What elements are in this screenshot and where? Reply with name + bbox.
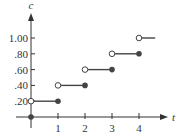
x-axis-label: t [172,111,176,123]
x-axis-arrow-icon [160,114,168,120]
open-point-icon [28,98,34,104]
x-tick-label: 2 [82,122,88,134]
ticks: 1234.20.40.60.801.00 [9,32,143,134]
open-point-icon [109,51,115,57]
y-tick-label: .20 [14,95,28,107]
y-axis-label: c [29,0,34,11]
step-series [28,35,155,120]
axis-labels: tc [29,0,176,123]
y-axis-arrow-icon [28,13,34,21]
open-point-icon [55,83,61,89]
x-tick-label: 1 [55,122,61,134]
y-tick-label: .60 [14,64,28,76]
closed-point-icon [55,98,61,104]
y-tick-label: 1.00 [9,32,29,44]
origin-point-icon [28,114,34,120]
open-point-icon [136,35,142,41]
closed-point-icon [136,51,142,57]
step-function-chart: 1234.20.40.60.801.00 tc [0,0,179,140]
open-point-icon [82,67,88,73]
closed-point-icon [82,83,88,89]
y-tick-label: .40 [14,79,28,91]
closed-point-icon [109,67,115,73]
x-tick-label: 3 [109,122,115,134]
x-tick-label: 4 [136,122,142,134]
axes [16,13,168,128]
y-tick-label: .80 [14,48,28,60]
